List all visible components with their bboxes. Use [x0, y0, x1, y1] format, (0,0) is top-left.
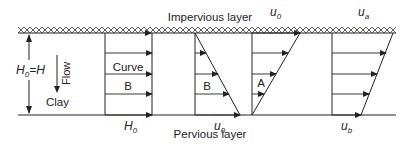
panel-1-label-line1: Curve	[113, 61, 144, 73]
panel-1-label-line2: B	[124, 80, 132, 92]
panel-4-bottom-label: ub	[341, 119, 353, 135]
pervious-layer-label: Pervious layer	[174, 128, 247, 140]
panel-3-top-label: u0	[270, 5, 282, 21]
panel-1-bottom-label: H0	[124, 119, 138, 135]
thickness-label: H0=H	[16, 63, 45, 79]
panel-4-top-label: ua	[358, 5, 370, 21]
clay-label: Clay	[46, 96, 69, 108]
arrow-down-icon	[54, 86, 60, 93]
impervious-layer-label: Impervious layer	[168, 11, 253, 23]
panel-3-label: A	[257, 77, 265, 89]
arrow-up-icon	[26, 34, 32, 42]
panel-a-triangle	[252, 33, 300, 115]
impervious-layer	[18, 27, 396, 33]
consolidation-diagram: Impervious layer Pervious layer H0=H Flo…	[0, 0, 420, 147]
arrow-down-icon	[26, 106, 32, 114]
hatch-pattern	[18, 27, 396, 33]
panel-2-label: B	[203, 80, 211, 92]
panel-b-triangle	[195, 33, 240, 115]
flow-label: Flow	[60, 62, 72, 85]
panel-2-bottom-label: u0	[214, 119, 226, 135]
panel-trapezoid	[332, 33, 393, 115]
